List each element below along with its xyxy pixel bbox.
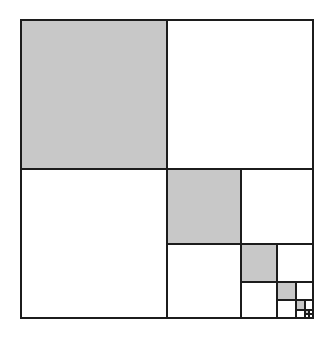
quadrant-cell-level-3-empty — [241, 282, 278, 320]
quadrant-cell-level-4-shaded — [277, 282, 295, 301]
quadrant-cell-level-3-shaded — [241, 244, 278, 282]
quadrant-cell-level-2-empty — [167, 244, 241, 319]
quadrant-cell-level-2-shaded — [167, 169, 241, 244]
quadrant-cell-level-4-empty — [296, 282, 314, 301]
quadrant-cell-level-1-empty — [20, 169, 167, 319]
quadrant-cell-level-1-shaded — [20, 19, 167, 169]
quadrant-cell-level-5-empty — [296, 310, 305, 319]
quadrant-cell-level-1-empty — [167, 19, 314, 169]
quadrant-cell-level-5-shaded — [296, 300, 305, 309]
quadrant-cell-level-4-empty — [277, 300, 295, 319]
figure-canvas — [0, 0, 332, 338]
quadrant-cell-level-3-empty — [277, 244, 314, 282]
quadrant-cell-level-6-empty — [309, 314, 314, 319]
quadrant-cell-level-2-empty — [241, 169, 315, 244]
recursive-quadrant-diagram — [20, 19, 314, 319]
quadrant-cell-level-5-empty — [305, 300, 314, 309]
